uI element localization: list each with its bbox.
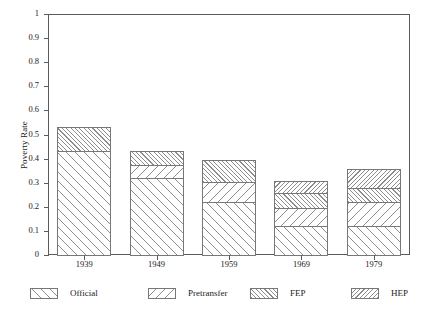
bar-segment (274, 208, 328, 227)
legend-item[interactable]: FEP (250, 288, 306, 299)
y-axis-tick-label: 0.1 (28, 225, 39, 235)
bar-segment (274, 226, 328, 256)
bars-layer (48, 14, 410, 255)
y-axis-tick-label: 0.2 (28, 201, 39, 211)
bar-segment (202, 182, 256, 202)
y-axis-tick-label: 0.6 (28, 104, 39, 114)
bar-segment (347, 226, 401, 256)
legend-swatch (351, 288, 379, 299)
chart-legend: OfficialPretransferFEPHEP (0, 288, 425, 308)
bar-column (347, 169, 401, 255)
bar-column (274, 181, 328, 255)
bar-segment (274, 193, 328, 209)
y-axis-tick-label: 0.4 (28, 153, 39, 163)
x-axis-tick-label: 1949 (127, 259, 187, 269)
bar-segment (130, 165, 184, 178)
x-axis-tick-label: 1979 (344, 259, 404, 269)
y-axis-tick-label: 0.7 (28, 80, 39, 90)
bar-column (130, 151, 184, 255)
bar-segment (274, 181, 328, 194)
bar-segment (347, 188, 401, 202)
y-axis-tick-label: 0.8 (28, 56, 39, 66)
x-axis-tick-label: 1959 (199, 259, 259, 269)
legend-swatch (30, 288, 58, 299)
y-axis-tick-mark (44, 255, 49, 256)
x-axis-tick-label: 1939 (54, 259, 114, 269)
legend-item-label: Pretransfer (188, 288, 227, 299)
bar-segment (130, 178, 184, 256)
y-axis-tick-label: 0.3 (28, 177, 39, 187)
bar-segment (202, 160, 256, 183)
legend-item-label: Official (70, 288, 98, 299)
bar-column (202, 160, 256, 255)
x-axis-tick-label: 1969 (271, 259, 331, 269)
bar-segment (57, 127, 111, 152)
legend-item[interactable]: HEP (351, 288, 408, 299)
y-axis-tick-label: 0 (35, 249, 39, 259)
poverty-rate-stacked-bar-chart: Poverty Rate 00.10.20.30.40.50.60.70.80.… (0, 0, 425, 316)
y-axis-tick-label: 0.5 (28, 129, 39, 139)
bar-segment (57, 151, 111, 256)
bar-segment (347, 169, 401, 189)
bar-segment (347, 202, 401, 227)
bar-segment (202, 202, 256, 256)
bar-column (57, 127, 111, 255)
legend-item-label: FEP (290, 288, 306, 299)
legend-swatch (250, 288, 278, 299)
legend-item[interactable]: Pretransfer (148, 288, 227, 299)
y-axis-tick-label: 0.9 (28, 32, 39, 42)
bar-segment (130, 151, 184, 167)
y-axis-tick-label: 1 (35, 8, 39, 18)
legend-item[interactable]: Official (30, 288, 98, 299)
legend-item-label: HEP (391, 288, 408, 299)
legend-swatch (148, 288, 176, 299)
